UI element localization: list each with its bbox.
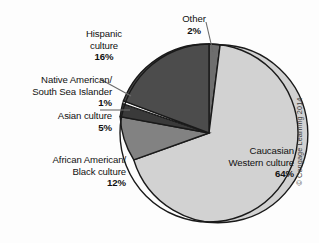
slice-label-native-american-text: Native American/ South Sea Islander — [32, 74, 112, 96]
slice-label-hispanic-percent: 16% — [95, 51, 114, 62]
slice-label-caucasian-percent: 64% — [275, 168, 294, 179]
slice-label-caucasian-text: Caucasian Western culture — [228, 145, 294, 167]
copyright-credit: © Cengage Learning 2014 — [295, 90, 304, 194]
slice-label-hispanic-text: Hispanic culture — [86, 28, 122, 50]
slice-label-asian-percent: 5% — [98, 122, 112, 133]
slice-label-african-american: African American/ Black culture 12% — [2, 143, 126, 189]
slice-label-african-american-percent: 12% — [107, 177, 126, 188]
slice-label-other-text: Other — [182, 13, 206, 24]
slice-label-asian: Asian culture 5% — [2, 99, 112, 133]
slice-label-hispanic: Hispanic culture 16% — [62, 17, 146, 63]
pie-chart-figure: Hispanic culture 16% Other 2% Native Ame… — [0, 0, 319, 243]
slice-label-other: Other 2% — [160, 2, 228, 36]
slice-label-other-percent: 2% — [187, 25, 201, 36]
slice-label-african-american-text: African American/ Black culture — [53, 154, 126, 176]
slice-label-caucasian: Caucasian Western culture 64% — [212, 134, 294, 180]
slice-label-asian-text: Asian culture — [58, 110, 112, 121]
